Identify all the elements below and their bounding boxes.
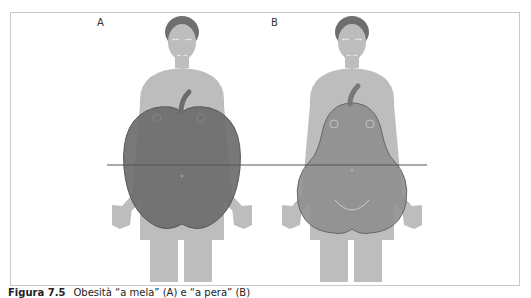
caption-number: Figura 7.5 xyxy=(8,287,65,298)
caption-text: Obesità “a mela” (A) e “a pera” (B) xyxy=(73,287,250,298)
figure-a-body xyxy=(112,16,252,282)
figure-b-body xyxy=(282,16,422,282)
figure-caption: Figura 7.5Obesità “a mela” (A) e “a pera… xyxy=(8,287,250,298)
apple-shape xyxy=(124,107,241,229)
